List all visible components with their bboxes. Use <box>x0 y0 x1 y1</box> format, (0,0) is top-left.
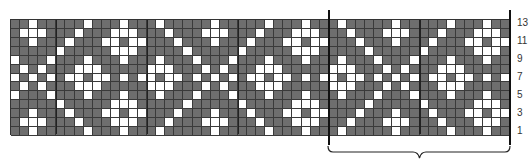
stitch-cell <box>11 109 20 118</box>
stitch-cell <box>156 38 165 47</box>
row-number-label: 9 <box>517 54 523 64</box>
stitch-cell <box>111 65 120 74</box>
stitch-cell <box>256 38 265 47</box>
stitch-cell <box>147 20 156 29</box>
stitch-cell <box>56 100 65 109</box>
stitch-cell <box>356 47 365 56</box>
stitch-cell <box>365 109 374 118</box>
stitch-cell <box>247 20 256 29</box>
stitch-cell <box>29 74 38 83</box>
stitch-cell <box>347 100 356 109</box>
stitch-cell <box>11 38 20 47</box>
stitch-cell <box>111 118 120 127</box>
stitch-cell <box>492 47 501 56</box>
stitch-cell <box>374 65 383 74</box>
stitch-cell <box>311 65 320 74</box>
stitch-cell <box>165 91 174 100</box>
stitch-cell <box>311 56 320 65</box>
stitch-cell <box>20 47 29 56</box>
stitch-cell <box>274 29 283 38</box>
stitch-cell <box>356 109 365 118</box>
stitch-cell <box>410 127 419 136</box>
stitch-cell <box>420 65 429 74</box>
stitch-cell <box>183 47 192 56</box>
stitch-cell <box>311 91 320 100</box>
stitch-cell <box>483 74 492 83</box>
stitch-cell <box>365 127 374 136</box>
stitch-cell <box>474 65 483 74</box>
stitch-cell <box>147 127 156 136</box>
stitch-cell <box>102 47 111 56</box>
repeat-divider-line <box>238 20 240 134</box>
stitch-cell <box>256 91 265 100</box>
stitch-cell <box>156 82 165 91</box>
stitch-cell <box>456 74 465 83</box>
stitch-cell <box>492 20 501 29</box>
stitch-cell <box>338 47 347 56</box>
stitch-cell <box>265 91 274 100</box>
stitch-cell <box>356 65 365 74</box>
stitch-cell <box>283 100 292 109</box>
stitch-cell <box>447 29 456 38</box>
stitch-cell <box>111 82 120 91</box>
stitch-cell <box>465 38 474 47</box>
stitch-cell <box>174 100 183 109</box>
stitch-cell <box>20 118 29 127</box>
stitch-cell <box>38 127 47 136</box>
stitch-cell <box>283 56 292 65</box>
stitch-cell <box>374 56 383 65</box>
stitch-cell <box>75 82 84 91</box>
stitch-cell <box>311 47 320 56</box>
stitch-cell <box>347 127 356 136</box>
stitch-cell <box>20 38 29 47</box>
stitch-cell <box>256 20 265 29</box>
stitch-cell <box>56 38 65 47</box>
stitch-cell <box>465 109 474 118</box>
stitch-cell <box>93 118 102 127</box>
stitch-cell <box>265 109 274 118</box>
stitch-cell <box>147 74 156 83</box>
stitch-cell <box>338 109 347 118</box>
stitch-cell <box>410 118 419 127</box>
stitch-cell <box>329 20 338 29</box>
stitch-cell <box>274 38 283 47</box>
stitch-cell <box>456 65 465 74</box>
stitch-cell <box>456 118 465 127</box>
stitch-cell <box>111 47 120 56</box>
stitch-cell <box>220 91 229 100</box>
stitch-cell <box>338 56 347 65</box>
stitch-cell <box>392 74 401 83</box>
stitch-cell <box>347 91 356 100</box>
stitch-cell <box>356 100 365 109</box>
stitch-cell <box>483 56 492 65</box>
stitch-cell <box>156 56 165 65</box>
stitch-cell <box>401 127 410 136</box>
stitch-cell <box>165 74 174 83</box>
stitch-cell <box>420 20 429 29</box>
stitch-cell <box>247 47 256 56</box>
stitch-cell <box>147 56 156 65</box>
stitch-cell <box>202 65 211 74</box>
stitch-cell <box>211 74 220 83</box>
stitch-cell <box>383 29 392 38</box>
stitch-cell <box>483 91 492 100</box>
stitch-cell <box>274 118 283 127</box>
stitch-cell <box>193 29 202 38</box>
stitch-cell <box>20 91 29 100</box>
stitch-cell <box>93 38 102 47</box>
stitch-cell <box>156 91 165 100</box>
stitch-cell <box>38 91 47 100</box>
stitch-cell <box>265 82 274 91</box>
stitch-cell <box>202 118 211 127</box>
stitch-cell <box>356 127 365 136</box>
stitch-cell <box>183 65 192 74</box>
stitch-cell <box>329 29 338 38</box>
stitch-cell <box>429 20 438 29</box>
stitch-cell <box>483 20 492 29</box>
stitch-cell <box>265 56 274 65</box>
stitch-cell <box>447 38 456 47</box>
stitch-cell <box>174 47 183 56</box>
stitch-cell <box>429 47 438 56</box>
stitch-cell <box>211 56 220 65</box>
stitch-cell <box>29 38 38 47</box>
